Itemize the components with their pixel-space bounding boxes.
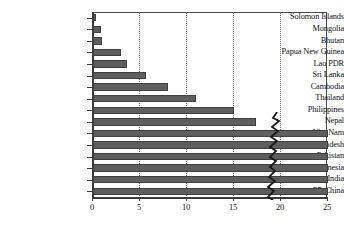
category-label-lao-pdr: Lao PDR — [258, 60, 344, 68]
bar-nepal — [93, 118, 256, 125]
bar-papua-new-guinea — [93, 49, 121, 56]
x-axis-line — [92, 197, 328, 199]
y-tick-5 — [87, 76, 92, 77]
y-tick-1 — [87, 29, 92, 30]
y-tick-4 — [87, 64, 92, 65]
y-tick-3 — [87, 52, 92, 53]
category-label-nepal: Nepal — [258, 117, 344, 125]
category-label-solomon-islands: Solomon Islands — [258, 13, 344, 21]
category-label-bhutan: Bhutan — [258, 37, 344, 45]
x-tick-15 — [233, 197, 234, 201]
y-tick-15 — [87, 191, 92, 192]
bar-pr-china — [93, 188, 328, 195]
bar-viet-nam — [93, 130, 328, 137]
x-tick-10 — [186, 197, 187, 201]
y-tick-9 — [87, 122, 92, 123]
y-tick-0 — [87, 18, 92, 19]
x-tick-0 — [92, 197, 93, 201]
x-tick-label-25: 25 — [323, 202, 331, 212]
x-tick-label-20: 20 — [276, 202, 284, 212]
bar-sri-lanka — [93, 72, 146, 79]
bar-lao-pdr — [93, 60, 127, 67]
category-label-papua-new-guinea: Papua New Guinea — [258, 48, 344, 56]
x-tick-label-10: 10 — [182, 202, 190, 212]
y-tick-13 — [87, 168, 92, 169]
bar-bhutan — [93, 37, 102, 44]
category-label-thailand: Thailand — [258, 94, 344, 102]
bar-india — [93, 176, 328, 183]
category-label-philippines: Philippines — [258, 106, 344, 114]
y-tick-8 — [87, 110, 92, 111]
category-label-sri-lanka: Sri Lanka — [258, 71, 344, 79]
bar-philippines — [93, 107, 234, 114]
bar-thailand — [93, 95, 196, 102]
bar-chart: 0510152025 Solomon IslandsMongoliaBhutan… — [0, 0, 344, 227]
y-tick-10 — [87, 133, 92, 134]
bar-mongolia — [93, 26, 101, 33]
x-tick-5 — [139, 197, 140, 201]
y-tick-12 — [87, 157, 92, 158]
x-tick-20 — [280, 197, 281, 201]
category-label-mongolia: Mongolia — [258, 25, 344, 33]
category-label-cambodia: Cambodia — [258, 83, 344, 91]
x-tick-label-15: 15 — [229, 202, 237, 212]
bar-pakistan — [93, 153, 328, 160]
bar-solomon-islands — [93, 14, 96, 21]
bar-indonesia — [93, 164, 328, 171]
bar-bangladesh — [93, 141, 328, 148]
y-tick-2 — [87, 41, 92, 42]
x-tick-label-0: 0 — [90, 202, 94, 212]
y-tick-6 — [87, 87, 92, 88]
x-tick-25 — [327, 197, 328, 201]
y-tick-7 — [87, 99, 92, 100]
y-tick-11 — [87, 145, 92, 146]
bar-cambodia — [93, 83, 168, 90]
x-tick-label-5: 5 — [137, 202, 141, 212]
y-tick-14 — [87, 180, 92, 181]
